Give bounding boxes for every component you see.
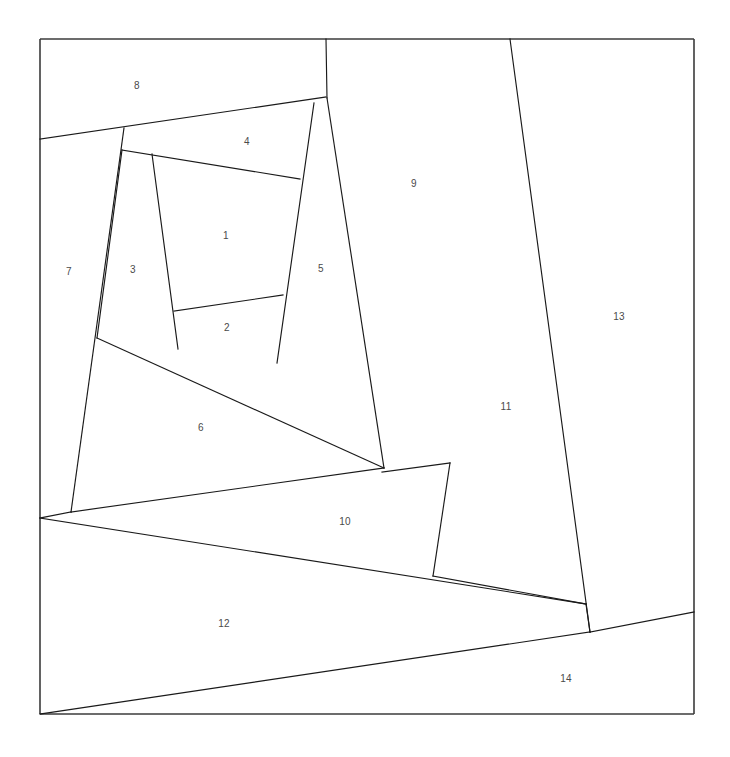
partition-canvas [0,0,730,757]
region-label-11: 11 [501,401,512,412]
region-label-6: 6 [198,422,204,433]
region-label-4: 4 [244,136,250,147]
region-label-10: 10 [339,516,351,527]
region-label-13: 13 [613,311,625,322]
region-label-8: 8 [134,80,140,91]
region-label-5: 5 [318,263,324,274]
region-label-12: 12 [218,618,230,629]
region-label-2: 2 [224,322,230,333]
region-faces-group [40,39,694,714]
polygon-partition-figure: 1234567891011121314 [0,0,730,757]
region-label-1: 1 [223,230,229,241]
region-label-14: 14 [560,673,572,684]
region-label-7: 7 [66,266,72,277]
region-label-9: 9 [411,178,417,189]
region-label-3: 3 [130,264,136,275]
